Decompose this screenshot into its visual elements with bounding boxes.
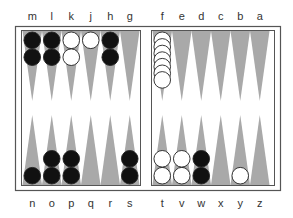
white-checker[interactable]	[173, 167, 190, 184]
black-checker[interactable]	[63, 151, 80, 168]
point-label-q: q	[83, 197, 99, 209]
point-label-w: w	[193, 197, 209, 209]
point-label-x: x	[213, 197, 229, 209]
point-label-d: d	[193, 10, 209, 22]
black-checker[interactable]	[102, 49, 119, 66]
black-checker[interactable]	[43, 167, 60, 184]
point-label-p: p	[63, 197, 79, 209]
white-checker[interactable]	[154, 151, 171, 168]
white-checker[interactable]	[63, 49, 80, 66]
white-checker[interactable]	[232, 167, 249, 184]
black-checker[interactable]	[63, 167, 80, 184]
point-label-g: g	[122, 10, 138, 22]
point-label-e: e	[174, 10, 190, 22]
point-label-h: h	[102, 10, 118, 22]
white-checker[interactable]	[63, 32, 80, 49]
white-checker[interactable]	[173, 151, 190, 168]
black-checker[interactable]	[193, 151, 210, 168]
point-label-v: v	[174, 197, 190, 209]
point-label-t: t	[154, 197, 170, 209]
point-label-r: r	[102, 197, 118, 209]
point-label-f: f	[154, 10, 170, 22]
point-label-z: z	[252, 197, 268, 209]
point-label-b: b	[232, 10, 248, 22]
white-checker[interactable]	[82, 32, 99, 49]
black-checker[interactable]	[102, 32, 119, 49]
black-checker[interactable]	[43, 151, 60, 168]
point-label-j: j	[83, 10, 99, 22]
black-checker[interactable]	[121, 167, 138, 184]
point-label-s: s	[122, 197, 138, 209]
point-label-m: m	[24, 10, 40, 22]
backgammon-board	[0, 0, 293, 218]
point-label-c: c	[213, 10, 229, 22]
black-checker[interactable]	[43, 49, 60, 66]
black-checker[interactable]	[193, 167, 210, 184]
point-label-n: n	[24, 197, 40, 209]
point-label-y: y	[232, 197, 248, 209]
point-label-l: l	[44, 10, 60, 22]
point-label-o: o	[44, 197, 60, 209]
white-checker[interactable]	[154, 167, 171, 184]
white-checker[interactable]	[154, 72, 171, 89]
black-checker[interactable]	[24, 167, 41, 184]
black-checker[interactable]	[24, 49, 41, 66]
black-checker[interactable]	[121, 151, 138, 168]
point-label-a: a	[252, 10, 268, 22]
point-label-k: k	[63, 10, 79, 22]
black-checker[interactable]	[43, 32, 60, 49]
black-checker[interactable]	[24, 32, 41, 49]
